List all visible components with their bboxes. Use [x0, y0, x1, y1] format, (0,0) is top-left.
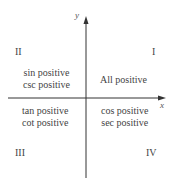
- quadrant-iv-numeral: IV: [146, 147, 157, 158]
- quadrant-iii-numeral: III: [15, 147, 25, 158]
- quadrant-iv-line-1: cos positive: [101, 105, 149, 117]
- quadrant-ii-numeral: II: [15, 46, 22, 57]
- quadrant-ii-text: sin positive csc positive: [23, 67, 70, 91]
- quadrant-i-numeral: I: [152, 46, 155, 57]
- quadrant-iv-line-2: sec positive: [101, 117, 149, 129]
- axes: [0, 0, 175, 187]
- quadrant-iii-line-2: cot positive: [22, 117, 68, 129]
- y-axis-arrow-icon: [84, 16, 89, 24]
- x-axis-label: x: [160, 100, 164, 110]
- quadrant-i-line-1: All positive: [100, 74, 147, 86]
- y-axis-label: y: [75, 10, 79, 20]
- quadrant-iv-text: cos positive sec positive: [101, 105, 149, 129]
- quadrant-i-text: All positive: [100, 74, 147, 86]
- quadrant-iii-line-1: tan positive: [22, 105, 68, 117]
- quadrant-iii-text: tan positive cot positive: [22, 105, 68, 129]
- quadrant-ii-line-1: sin positive: [23, 67, 70, 79]
- quadrant-ii-line-2: csc positive: [23, 79, 70, 91]
